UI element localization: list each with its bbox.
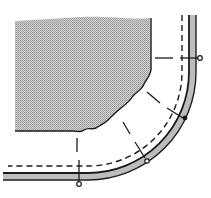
marker-open-circle-3 [77, 182, 82, 187]
guide-line-3 [123, 122, 130, 134]
marker-open-circle-2 [145, 159, 149, 163]
marker-open-circle-1 [198, 56, 203, 61]
sewing-diagram [0, 0, 211, 198]
fabric-piece [15, 17, 151, 132]
diagram-svg [0, 0, 211, 198]
guide-line-3-cross [135, 142, 145, 158]
marker-filled-dot [183, 116, 188, 121]
guide-line-2 [147, 92, 160, 103]
